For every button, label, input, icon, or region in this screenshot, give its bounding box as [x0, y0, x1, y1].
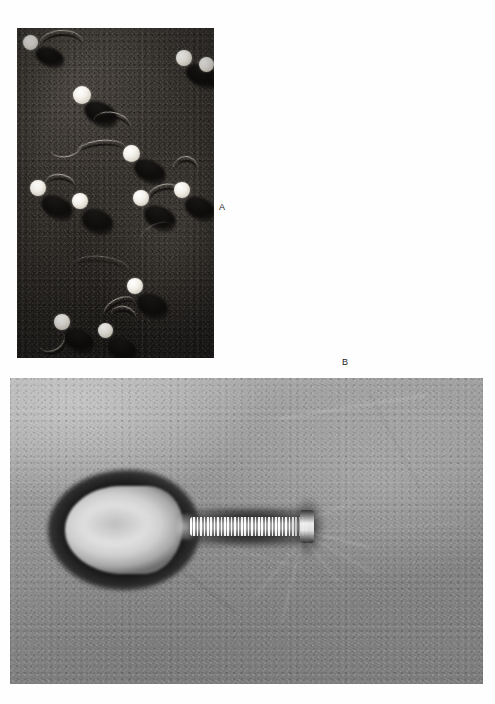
figure-page: A B	[0, 0, 495, 704]
capsid-interior	[84, 506, 146, 542]
panel-b-micrograph	[10, 378, 483, 684]
contractile-tail-sheath	[190, 517, 308, 536]
panel-label-a: A	[219, 203, 225, 212]
panel-a-micrograph	[17, 28, 214, 358]
panel-a-vignette	[17, 28, 214, 358]
panel-label-b: B	[342, 358, 348, 367]
